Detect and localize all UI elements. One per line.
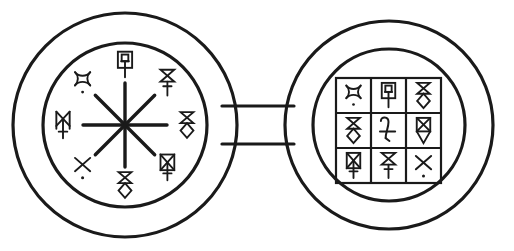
wheel-symbol-bottom-left: [75, 158, 90, 179]
wheel-symbol-bottom: [119, 172, 132, 198]
grid-cell-r0c1: [382, 83, 396, 107]
grid-cell-r0c0: [346, 86, 360, 106]
grid-cell-r1c2: [417, 118, 431, 143]
grid-cell-r1c1: [380, 118, 395, 141]
sigil-diagram-canvas: [0, 0, 514, 251]
sigil-figure: [0, 0, 514, 251]
wheel-symbol-top-right: [161, 70, 175, 96]
grid-cell-r1c0: [347, 118, 360, 143]
wheel-symbol-top-left: [75, 72, 90, 93]
wheel-symbol-right: [181, 112, 194, 138]
grid-cell-r0c2: [417, 83, 430, 108]
connector-bar: [222, 106, 294, 144]
grid-cell-r2c0: [347, 153, 361, 178]
grid-cell-r2c2: [416, 156, 431, 177]
sigil-grid-glyphs: [346, 83, 431, 178]
grid-cell-r2c1: [382, 153, 396, 178]
eight-point-asterisk: [83, 83, 167, 167]
wheel-symbol-left: [56, 112, 69, 139]
wheel-symbol-top: [118, 52, 132, 78]
wheel-symbol-bottom-right: [161, 155, 175, 181]
